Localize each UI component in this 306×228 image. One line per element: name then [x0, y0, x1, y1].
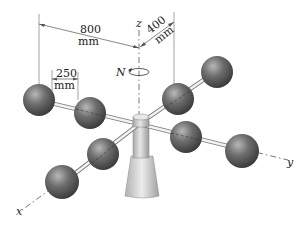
z-axis: z	[135, 17, 142, 118]
sphere-lower-right-inner	[170, 121, 202, 153]
dim-800-unit: mm	[78, 35, 99, 48]
sphere-upper-left-inner	[74, 97, 106, 129]
spheres-assembly-diagram: 800 mm 400 mm 250 mm z N	[0, 0, 306, 228]
z-axis-label: z	[135, 17, 142, 30]
sphere-lower-left-outer	[45, 165, 79, 199]
rotation-indicator: N	[115, 66, 149, 79]
dimension-800mm: 800 mm	[39, 23, 139, 48]
dimension-250mm: 250 mm	[52, 67, 78, 92]
sphere-upper-right-outer	[201, 56, 233, 88]
sphere-lower-right-outer	[225, 134, 259, 168]
arrowhead-icon	[39, 24, 45, 27]
sphere-lower-left-inner	[87, 138, 119, 170]
dim-250-unit: mm	[54, 79, 75, 92]
y-axis-label: y	[286, 156, 294, 169]
dimension-400mm: 400 mm	[140, 13, 177, 47]
arrowhead-icon	[128, 68, 132, 72]
hub-collar	[133, 114, 149, 127]
x-axis-label: x	[16, 205, 23, 218]
sphere-upper-left-outer	[23, 84, 55, 116]
support-base	[125, 156, 159, 198]
rotation-speed-label: N	[115, 66, 126, 79]
arrowhead-icon	[140, 42, 146, 47]
sphere-upper-right-inner	[162, 83, 194, 115]
diagram-canvas: 800 mm 400 mm 250 mm z N	[0, 0, 306, 228]
arrowhead-icon	[133, 45, 139, 48]
